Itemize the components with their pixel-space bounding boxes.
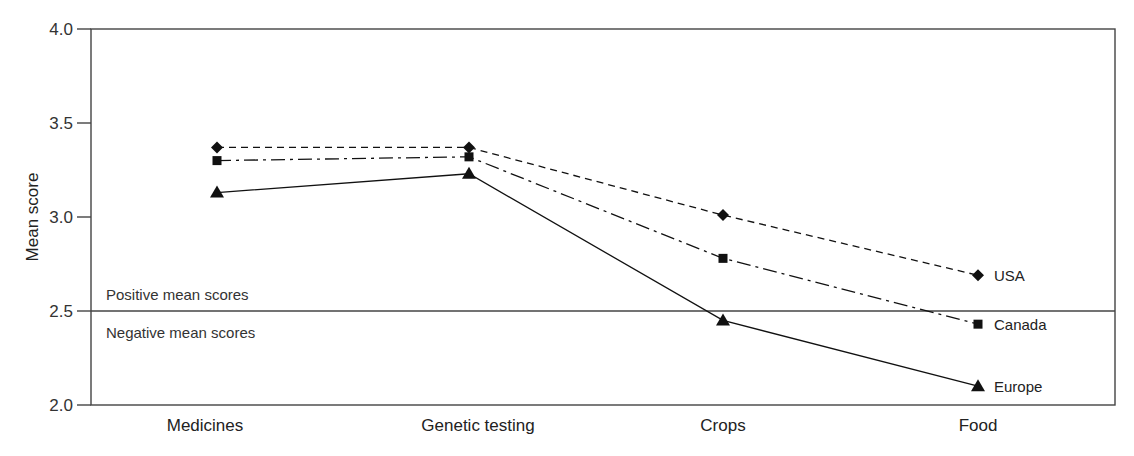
square-marker bbox=[719, 254, 728, 263]
series-group: USACanadaEurope bbox=[210, 141, 1047, 395]
diamond-marker bbox=[972, 269, 984, 281]
x-axis-labels: MedicinesGenetic testingCropsFood bbox=[167, 416, 998, 435]
y-tick-label: 3.0 bbox=[49, 208, 73, 227]
square-marker bbox=[974, 320, 983, 329]
y-tick-label: 2.5 bbox=[49, 302, 73, 321]
triangle-marker bbox=[462, 167, 476, 179]
line-chart: 2.02.53.03.54.0 Positive mean scores Neg… bbox=[0, 0, 1134, 456]
series-label-europe: Europe bbox=[994, 378, 1042, 395]
series-line bbox=[217, 174, 978, 386]
x-category-label: Medicines bbox=[167, 416, 244, 435]
square-marker bbox=[465, 152, 474, 161]
x-category-label: Crops bbox=[700, 416, 745, 435]
series-line bbox=[217, 147, 978, 275]
series-canada: Canada bbox=[213, 152, 1048, 333]
negative-region-label: Negative mean scores bbox=[106, 324, 255, 341]
x-category-label: Food bbox=[959, 416, 998, 435]
y-axis-label: Mean score bbox=[23, 173, 42, 262]
y-tick-label: 4.0 bbox=[49, 20, 73, 39]
series-usa: USA bbox=[211, 141, 1025, 284]
plot-frame bbox=[91, 29, 1115, 405]
diamond-marker bbox=[717, 209, 729, 221]
triangle-marker bbox=[716, 313, 730, 325]
series-europe: Europe bbox=[210, 167, 1042, 395]
series-label-canada: Canada bbox=[994, 316, 1047, 333]
square-marker bbox=[213, 156, 222, 165]
diamond-marker bbox=[211, 141, 223, 153]
diamond-marker bbox=[463, 141, 475, 153]
positive-region-label: Positive mean scores bbox=[106, 286, 249, 303]
y-tick-label: 3.5 bbox=[49, 114, 73, 133]
y-tick-label: 2.0 bbox=[49, 396, 73, 415]
x-category-label: Genetic testing bbox=[421, 416, 534, 435]
y-axis: 2.02.53.03.54.0 bbox=[49, 20, 91, 415]
series-label-usa: USA bbox=[994, 267, 1025, 284]
